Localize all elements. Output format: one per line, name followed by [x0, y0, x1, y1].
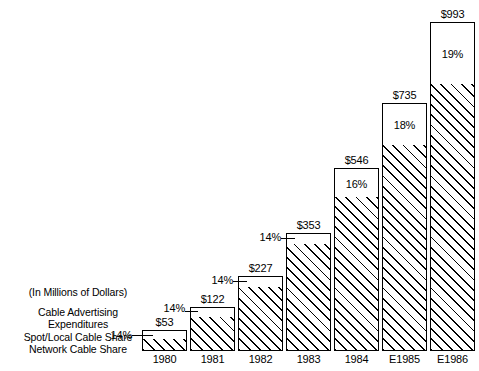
bar-e1985: 18%: [382, 103, 427, 351]
bar-1980: [142, 330, 187, 351]
bar-1982: [238, 276, 283, 351]
pct-label-1981: 14%: [150, 302, 185, 314]
value-label-e1986: $993: [413, 8, 479, 20]
x-tick-e1986: E1986: [413, 353, 479, 365]
leader-line-1983: [281, 238, 295, 239]
segment-network-1981: [191, 317, 234, 350]
pct-label-e1985: 18%: [394, 119, 415, 131]
pct-label-1983: 14%: [246, 231, 281, 243]
segment-spot-local-e1985: 18%: [383, 104, 426, 147]
segment-spot-local-e1986: 19%: [431, 23, 474, 86]
leader-line-1981: [185, 311, 198, 312]
pct-label-1980: 14%: [104, 329, 132, 341]
segment-spot-local-1984: 16%: [335, 169, 378, 199]
bar-1981: [190, 307, 235, 351]
segment-network-e1985: [383, 145, 426, 350]
bar-e1986: 19%: [430, 22, 475, 351]
bar-1984: 16%: [334, 168, 379, 351]
bar-1983: [286, 233, 331, 351]
pct-label-1984: 16%: [346, 178, 367, 190]
segment-network-1980: [143, 339, 186, 350]
pct-label-e1986: 19%: [442, 48, 463, 60]
leader-line-1982: [233, 281, 247, 282]
segment-network-1983: [287, 244, 330, 350]
segment-network-1982: [239, 287, 282, 350]
segment-network-1984: [335, 197, 378, 350]
leader-line-1980: [132, 335, 153, 336]
pct-label-1982: 14%: [198, 274, 233, 286]
segment-network-e1986: [431, 84, 474, 350]
